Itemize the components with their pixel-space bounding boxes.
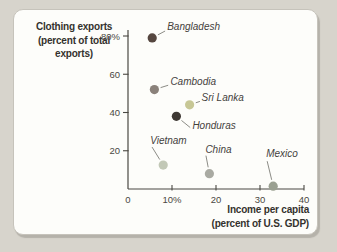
data-point-bangladesh [148,33,157,42]
x-axis-title-line: (percent of U.S. GDP) [129,217,309,231]
leader-line-vietnam [152,147,160,160]
y-tick-label: 40 [109,107,120,118]
point-label-mexico: Mexico [266,148,298,159]
data-point-mexico [269,182,278,191]
point-label-bangladesh: Bangladesh [167,21,220,32]
leader-line-sri-lanka [196,101,200,102]
data-point-vietnam [159,160,168,169]
chart-panel: Clothing exports (percent of total expor… [13,9,318,235]
leader-line-mexico [267,161,271,180]
y-tick-label: 60 [109,69,120,80]
data-point-honduras [172,112,181,121]
leader-line-cambodia [161,85,169,87]
point-label-vietnam: Vietnam [150,135,187,146]
x-axis-title: Income per capita (percent of U.S. GDP) [129,203,309,230]
scatter-plot: 010%20304020406080%BangladeshCambodiaSri… [14,10,317,234]
point-label-honduras: Honduras [192,120,235,131]
leader-line-china [206,156,208,168]
y-tick-label: 20 [109,145,120,156]
leader-line-bangladesh [158,31,165,35]
data-point-sri-lanka [185,100,194,109]
data-point-china [205,169,214,178]
y-tick-label: 80% [101,31,121,42]
data-point-cambodia [150,85,159,94]
x-axis-title-line: Income per capita [129,203,309,217]
point-label-cambodia: Cambodia [170,76,216,87]
point-label-sri-lanka: Sri Lanka [202,92,245,103]
point-label-china: China [205,144,232,155]
leader-line-honduras [181,120,190,127]
